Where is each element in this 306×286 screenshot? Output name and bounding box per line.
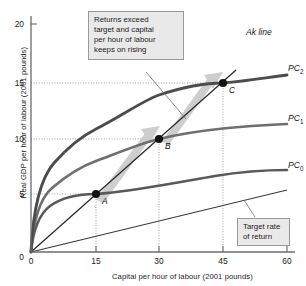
x-tick-label-0: 0 [20,256,42,266]
x-tick-label-60: 60 [276,256,298,266]
y-tick-label-20: 20 [6,19,24,29]
x-axis-title: Capital per hour of labour (2001 pounds) [112,272,253,281]
callout-target-line2: of return [243,232,285,242]
curve-label-pc1-sub: 1 [300,118,304,125]
callout-target-line1: Target rate [243,222,285,232]
curve-label-pc0-text: PC [288,160,300,170]
curve-label-pc2-text: PC [288,63,300,73]
marker-point-c [219,79,227,87]
callout-returns-exceed-target: Returns exceed target and capital per ho… [88,11,184,60]
callout-returns-line1: Returns exceed [94,15,179,25]
x-tick-label-45: 45 [212,256,234,266]
curve-label-pc2: PC2 [288,63,303,75]
economics-production-function-chart: 20 15 10 5 0 0 15 30 45 60 Capital per h… [0,0,306,286]
x-tick-label-30: 30 [148,256,170,266]
x-tick-label-15: 15 [85,256,107,266]
ak-line-label: Ak line [246,27,272,37]
callout-target-rate-of-return: Target rate of return [237,218,290,246]
point-label-b: B [165,141,171,151]
curve-label-pc1: PC1 [288,113,303,125]
point-label-a: A [102,196,108,206]
curve-label-pc0: PC0 [288,160,303,172]
curve-label-pc2-sub: 2 [300,68,304,75]
curve-label-pc0-sub: 0 [300,165,304,172]
marker-point-b [155,135,163,143]
y-axis-title: Real GDP per hour of labour (2001 pounds… [19,38,28,208]
curve-label-pc1-text: PC [288,113,300,123]
point-label-c: C [229,85,235,95]
callout-returns-line2: target and capital [94,25,179,35]
marker-point-a [92,190,100,198]
callout-returns-line4: keeps on rising [94,45,179,55]
callout-returns-line3: per hour of labour [94,35,179,45]
